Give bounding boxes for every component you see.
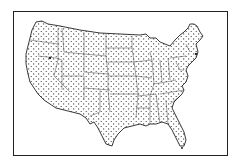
contiguous-us	[20, 18, 210, 150]
us-dot-map	[0, 0, 242, 168]
